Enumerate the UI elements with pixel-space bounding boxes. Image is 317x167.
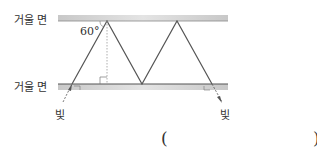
mirror-diagram [0,0,317,167]
arrowhead-out-icon [217,96,222,103]
right-angle-mark [100,77,107,84]
angle-arc [100,21,104,27]
top-mirror [58,15,228,21]
answer-close-paren: ) [313,128,317,148]
light-out-label: 빛 [220,106,230,122]
mirror-top-label: 거울 면 [14,11,48,27]
answer-open-paren: ( [161,128,168,148]
bottom-mirror [58,84,228,90]
mirror-bottom-label: 거울 면 [14,78,48,94]
angle-label: 60° [80,25,100,38]
light-in-label: 빛 [55,106,65,122]
